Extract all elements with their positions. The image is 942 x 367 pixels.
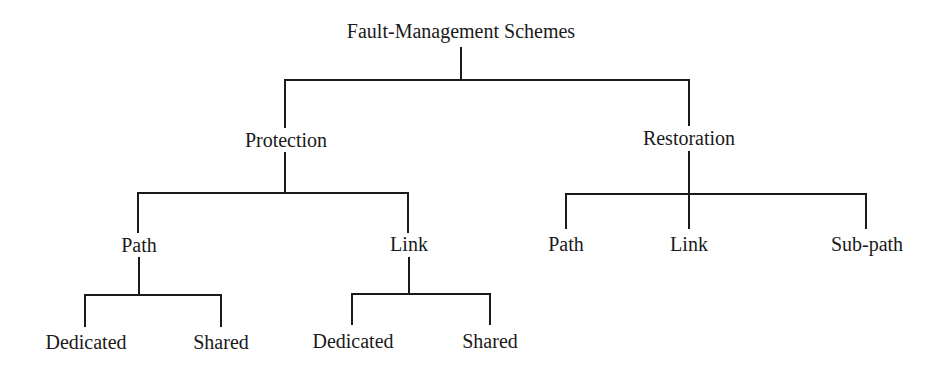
node-restoration: Restoration xyxy=(643,128,735,148)
node-restoration-subpath: Sub-path xyxy=(831,234,903,254)
node-protection: Protection xyxy=(245,130,327,150)
node-root: Fault-Management Schemes xyxy=(347,21,575,41)
node-protection-path: Path xyxy=(121,235,157,255)
node-link-dedicated: Dedicated xyxy=(312,331,393,351)
node-restoration-link: Link xyxy=(670,234,708,254)
node-path-dedicated: Dedicated xyxy=(45,332,126,352)
node-path-shared: Shared xyxy=(193,332,249,352)
node-link-shared: Shared xyxy=(462,331,518,351)
connector-lines xyxy=(0,0,942,367)
node-protection-link: Link xyxy=(390,234,428,254)
node-restoration-path: Path xyxy=(548,234,584,254)
fault-management-tree-diagram: Fault-Management Schemes Protection Rest… xyxy=(0,0,942,367)
